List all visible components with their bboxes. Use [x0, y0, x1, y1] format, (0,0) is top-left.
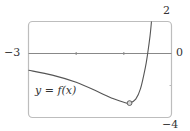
function-label: y = f(x) [35, 85, 76, 96]
y-max-label: 2 [163, 5, 170, 16]
x-max-label: 0 [176, 47, 183, 58]
x-min-label: −3 [4, 47, 20, 58]
chart-canvas [0, 0, 190, 131]
minimum-point-marker [127, 101, 132, 106]
y-min-label: −4 [162, 119, 178, 130]
